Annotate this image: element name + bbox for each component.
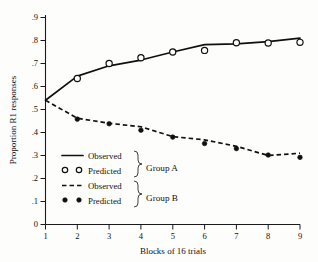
data-point	[139, 128, 144, 133]
data-point	[106, 60, 112, 66]
y-tick-label-6: .6	[32, 81, 38, 91]
data-point	[201, 47, 207, 53]
data-point	[233, 40, 239, 46]
legend-brace-group-a	[134, 151, 142, 177]
x-tick-group	[46, 225, 301, 230]
x-tick-label-7: 7	[234, 231, 238, 241]
y-tick-label-5: .5	[32, 104, 38, 114]
data-point	[74, 75, 80, 81]
legend-label-observed-a: Observed	[88, 151, 122, 161]
legend-group-a-label: Group A	[146, 163, 178, 173]
data-point	[75, 117, 80, 122]
x-tick-label-2: 2	[75, 231, 79, 241]
data-point	[298, 155, 303, 160]
y-axis-title: Proportion R1 responses	[8, 75, 18, 164]
chart-figure: 0 .1 .2 .3 .4 .5 .6 .7 .8 .9 1 2 3 4 5 6…	[0, 0, 318, 262]
legend-swatch-open-circle-1	[62, 167, 67, 172]
legend-brace-group-b	[134, 181, 142, 207]
data-point	[265, 40, 271, 46]
data-point	[107, 121, 112, 126]
data-point	[234, 146, 239, 151]
data-point	[266, 153, 271, 158]
y-tick-label-9: .9	[32, 12, 38, 22]
legend-swatch-filled-circle-2	[77, 198, 82, 203]
data-point	[297, 39, 303, 45]
x-tick-label-9: 9	[298, 231, 302, 241]
legend-swatch-filled-circle-1	[63, 198, 68, 203]
x-tick-label-8: 8	[266, 231, 270, 241]
legend-label-predicted-b: Predicted	[88, 196, 122, 206]
y-tick-label-0: 0	[34, 219, 38, 229]
legend: Observed Predicted Group A Observed Pred…	[62, 151, 178, 207]
y-tick-label-3: .3	[32, 150, 38, 160]
x-tick-label-1: 1	[43, 231, 47, 241]
y-tick-label-4: .4	[32, 127, 39, 137]
x-tick-label-3: 3	[107, 231, 111, 241]
y-tick-group	[41, 18, 46, 225]
legend-group-b-label: Group B	[146, 193, 178, 203]
x-tick-label-4: 4	[139, 231, 144, 241]
y-tick-label-2: .2	[32, 173, 38, 183]
series-layer	[46, 38, 304, 159]
legend-label-observed-b: Observed	[88, 181, 122, 191]
chart-canvas: 0 .1 .2 .3 .4 .5 .6 .7 .8 .9 1 2 3 4 5 6…	[0, 0, 318, 262]
legend-swatch-open-circle-2	[76, 167, 81, 172]
y-tick-label-7: .7	[32, 58, 38, 68]
data-point	[138, 55, 144, 61]
data-point	[170, 135, 175, 140]
x-axis-title: Blocks of 16 trials	[140, 246, 207, 256]
y-tick-label-8: .8	[32, 35, 38, 45]
y-tick-label-1: .1	[32, 196, 38, 206]
series-line-0	[46, 38, 301, 100]
data-point	[202, 141, 207, 146]
x-tick-label-5: 5	[171, 231, 175, 241]
legend-label-predicted-a: Predicted	[88, 166, 122, 176]
data-point	[170, 49, 176, 55]
x-tick-label-6: 6	[202, 231, 206, 241]
series-line-2	[46, 100, 301, 155]
